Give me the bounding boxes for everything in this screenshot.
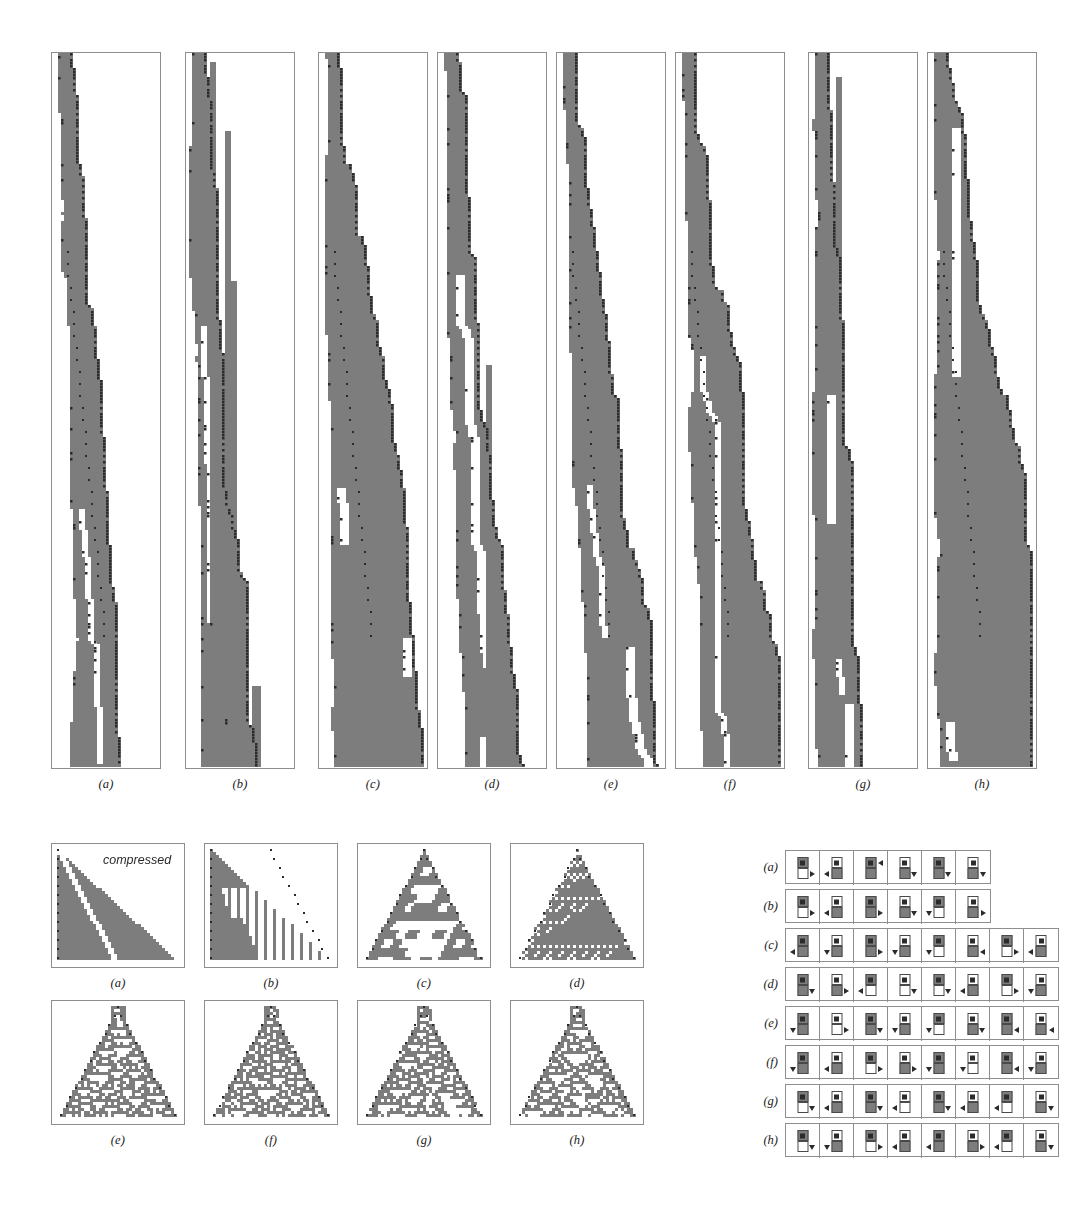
rule-input-cell	[865, 1130, 876, 1141]
rule-cell[interactable]	[786, 1007, 820, 1041]
head-marker-icon	[1039, 977, 1044, 982]
rule-cell[interactable]	[888, 1124, 922, 1158]
rule-cell[interactable]	[956, 1007, 990, 1041]
rule-input-cell	[1036, 935, 1047, 946]
head-marker-icon	[936, 1055, 941, 1060]
rule-cell[interactable]	[820, 929, 854, 963]
move-left-arrow-icon	[858, 988, 863, 994]
rule-cell[interactable]	[922, 1124, 956, 1158]
rule-cell[interactable]	[990, 929, 1024, 963]
rule-cell[interactable]	[786, 1124, 820, 1158]
rule-cell[interactable]	[990, 1046, 1024, 1080]
rule-cell[interactable]	[786, 1085, 820, 1119]
rule-cell[interactable]	[854, 1007, 888, 1041]
rule-output-cell	[967, 1063, 978, 1074]
rule-output-cell	[967, 946, 978, 957]
rule-cell[interactable]	[922, 890, 956, 924]
rule-cell[interactable]	[1024, 1124, 1058, 1158]
rule-cell[interactable]	[922, 968, 956, 1002]
rule-cell[interactable]	[1024, 1007, 1058, 1041]
rule-cell[interactable]	[956, 1124, 990, 1158]
rule-cell[interactable]	[888, 968, 922, 1002]
rule-cell[interactable]	[786, 1046, 820, 1080]
rule-cell[interactable]	[786, 851, 820, 885]
rule-cell[interactable]	[956, 851, 990, 885]
rule-cell[interactable]	[1024, 1085, 1058, 1119]
rule-cell[interactable]	[1024, 929, 1058, 963]
move-left-arrow-icon	[926, 1144, 931, 1150]
rule-cell[interactable]	[854, 968, 888, 1002]
rule-cell[interactable]	[956, 1085, 990, 1119]
rule-cell[interactable]	[888, 1007, 922, 1041]
rule-cell[interactable]	[854, 851, 888, 885]
rule-input-cell	[933, 935, 944, 946]
rule-input-cell	[797, 896, 808, 907]
rule-cell[interactable]	[854, 1046, 888, 1080]
rule-box	[785, 928, 1059, 962]
evolution-canvas	[557, 53, 665, 768]
rule-row-label: (d)	[748, 977, 785, 992]
rule-cell[interactable]	[922, 851, 956, 885]
head-marker-icon	[970, 1055, 975, 1060]
rule-input-cell	[865, 1013, 876, 1024]
rule-cell[interactable]	[1024, 968, 1058, 1002]
middle-panel-c	[357, 843, 491, 968]
head-marker-icon	[936, 1094, 941, 1099]
rule-cell[interactable]	[956, 890, 990, 924]
rule-output-cell	[831, 868, 842, 879]
rule-cell[interactable]	[854, 890, 888, 924]
rule-cell[interactable]	[990, 1007, 1024, 1041]
move-left-arrow-icon	[960, 1105, 965, 1111]
rule-cell[interactable]	[990, 968, 1024, 1002]
rule-output-cell	[1001, 946, 1012, 957]
rule-output-cell	[968, 868, 979, 879]
rule-cell[interactable]	[820, 1085, 854, 1119]
head-marker-icon	[970, 1016, 975, 1021]
rule-cell[interactable]	[888, 1085, 922, 1119]
rule-cell[interactable]	[820, 1007, 854, 1041]
rule-cell[interactable]	[854, 1085, 888, 1119]
rule-cell[interactable]	[888, 1046, 922, 1080]
rule-cell[interactable]	[956, 968, 990, 1002]
rule-cell[interactable]	[786, 890, 820, 924]
rule-cell[interactable]	[922, 1007, 956, 1041]
rule-cell[interactable]	[990, 1085, 1024, 1119]
rule-cell[interactable]	[820, 890, 854, 924]
rule-cell[interactable]	[854, 929, 888, 963]
rule-cell[interactable]	[854, 1124, 888, 1158]
rule-cell[interactable]	[990, 1124, 1024, 1158]
move-down-arrow-icon	[945, 989, 951, 994]
rule-input-cell	[865, 896, 876, 907]
rule-output-cell	[865, 1024, 876, 1035]
rule-cell[interactable]	[786, 968, 820, 1002]
rule-cell[interactable]	[888, 851, 922, 885]
rule-cell[interactable]	[786, 929, 820, 963]
top-panel-caption: (g)	[808, 777, 918, 792]
evolution-canvas	[186, 53, 294, 768]
rule-cell[interactable]	[922, 929, 956, 963]
rule-input-cell	[831, 1130, 842, 1141]
middle-panel-caption: (d)	[510, 976, 644, 991]
move-right-arrow-icon	[981, 910, 986, 916]
rule-input-cell	[865, 935, 876, 946]
rule-cell[interactable]	[922, 1046, 956, 1080]
rule-input-cell	[899, 1013, 910, 1024]
rule-cell[interactable]	[820, 851, 854, 885]
rule-cell[interactable]	[820, 1124, 854, 1158]
move-down-arrow-icon	[945, 1106, 951, 1111]
rule-cell[interactable]	[820, 1046, 854, 1080]
head-marker-icon	[1004, 1016, 1009, 1021]
rule-cell[interactable]	[888, 929, 922, 963]
rule-cell[interactable]	[956, 1046, 990, 1080]
rule-cell[interactable]	[956, 929, 990, 963]
rule-cell[interactable]	[820, 968, 854, 1002]
head-marker-icon	[834, 1094, 839, 1099]
rule-cell[interactable]	[922, 1085, 956, 1119]
rule-cell[interactable]	[888, 890, 922, 924]
middle-panel-caption: (b)	[204, 976, 338, 991]
rule-output-cell	[899, 1024, 910, 1035]
head-marker-icon	[936, 1016, 941, 1021]
rule-cell[interactable]	[1024, 1046, 1058, 1080]
head-marker-icon	[868, 1094, 873, 1099]
head-marker-icon	[834, 860, 839, 865]
